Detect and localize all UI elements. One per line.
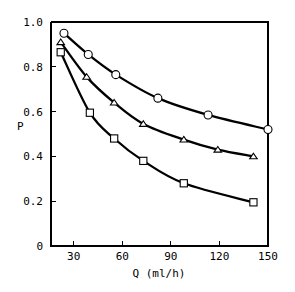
circle-series-marker [84,50,92,58]
triangle-series-marker [57,39,65,45]
y-tick-label: 0.2 [23,195,43,208]
x-axis-tick-labels: 306090120150 [67,250,278,263]
plot-frame [51,22,268,246]
square-series-line [61,52,254,202]
circle-series-line [64,33,268,129]
line-chart-svg: 00.20.40.60.81.0 306090120150 P Q (ml/h) [0,0,295,292]
circle-series-marker [60,29,68,37]
y-axis-ticks [51,22,56,246]
x-axis-title: Q (ml/h) [133,267,186,280]
x-axis-ticks [74,241,268,246]
y-tick-label: 0 [36,240,43,253]
x-tick-label: 60 [116,250,129,263]
square-series-marker [250,199,257,206]
y-tick-label: 0.8 [23,61,43,74]
x-tick-label: 30 [67,250,80,263]
series-lines-group [61,33,268,202]
circle-series-marker [204,111,212,119]
square-series-marker [111,135,118,142]
y-axis-tick-labels: 00.20.40.60.81.0 [23,16,43,253]
chart-figure: 00.20.40.60.81.0 306090120150 P Q (ml/h) [0,0,295,292]
square-series-marker [86,109,93,116]
x-tick-label: 90 [164,250,177,263]
square-series-marker [140,157,147,164]
square-series-marker [180,180,187,187]
y-tick-label: 0.4 [23,150,43,163]
x-tick-label: 120 [209,250,229,263]
circle-series-marker [264,126,272,134]
plot-border [51,22,268,246]
series-markers-group [57,29,272,206]
y-tick-label: 1.0 [23,16,43,29]
x-tick-label: 150 [258,250,278,263]
circle-series-marker [112,71,120,79]
y-tick-label: 0.6 [23,106,43,119]
square-series-marker [57,49,64,56]
y-axis-title: P [17,120,24,133]
circle-series-marker [154,94,162,102]
